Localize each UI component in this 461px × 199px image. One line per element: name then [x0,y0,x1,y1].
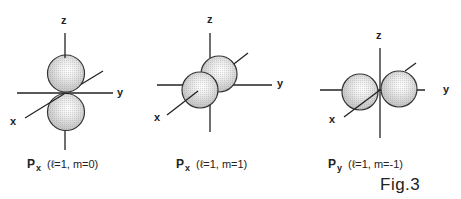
panel-1-orbital-symbol: P [27,157,35,171]
panel-1-x-label: x [10,116,16,127]
panel-3-y-label: y [443,84,449,95]
panel-2-orbital-symbol: P [176,157,184,171]
panel-1-diagram [17,33,113,150]
panel-1-caption: Px(ℓ=1, m=0) [27,158,98,170]
panel-2-front-lobe-texture [183,73,218,108]
panel-1-z-label: z [61,15,67,26]
panel-3-z-label: z [376,30,382,41]
panel-1-upper-lobe-texture [48,56,84,92]
panel-3-x-label: x [329,114,335,125]
panel-1-lower-lobe-texture [48,94,84,130]
panel-2-x-label: x [154,112,160,123]
panel-2-quantum-numbers: (ℓ=1, m=1) [196,158,247,170]
panel-2-z-label: z [207,14,213,25]
panel-1-y-label: y [117,87,123,98]
panel-3-orbital-symbol: P [328,157,336,171]
panel-3-right-lobe-texture [382,72,417,107]
panel-3-orbital-subscript: y [337,163,342,173]
panel-1-quantum-numbers: (ℓ=1, m=0) [47,158,98,170]
panel-3-diagram [320,48,425,138]
panel-3-caption: Py(ℓ=1, m=-1) [328,158,403,170]
panel-1-orbital-subscript: x [36,163,41,173]
panel-3-x-axis-back [405,63,416,71]
panel-2-caption: Px(ℓ=1, m=1) [176,158,247,170]
panel-2-diagram [157,33,272,132]
panel-3-quantum-numbers: (ℓ=1, m=-1) [348,158,403,170]
figure-label: Fig.3 [380,176,420,193]
panel-2-orbital-subscript: x [185,163,190,173]
panel-2-y-label: y [277,78,283,89]
